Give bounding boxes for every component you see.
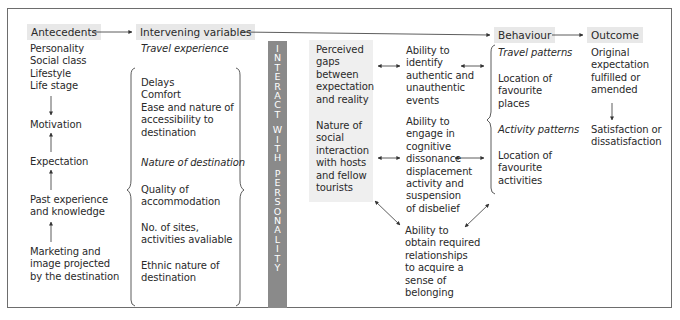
connector-lines: [0, 0, 680, 320]
